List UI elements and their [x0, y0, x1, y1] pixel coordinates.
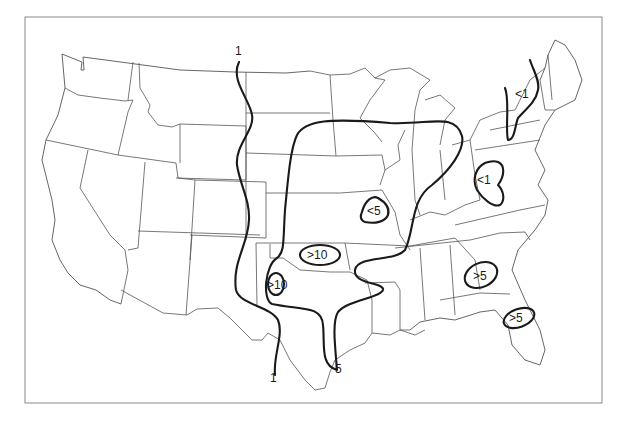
gt10-ok-label: >10	[307, 248, 328, 262]
gt5-ga-label: >5	[473, 269, 487, 283]
isolines	[235, 60, 538, 375]
lt5-missouri-label: <5	[367, 204, 381, 218]
lt1-wv-label: <1	[477, 173, 491, 187]
gt5-fl-label: >5	[509, 311, 523, 325]
isoline-5	[266, 121, 462, 370]
lt1-new-york-label: <1	[515, 87, 529, 101]
isoline-1-west	[235, 62, 279, 375]
isoline-1-label-south: 1	[270, 371, 277, 385]
isoline-5-label: 5	[335, 362, 342, 376]
map-frame	[25, 17, 602, 403]
state-boundaries	[42, 40, 582, 390]
isoline-1-label-north: 1	[235, 44, 242, 58]
gt10-tx-label: >10	[267, 278, 288, 292]
us-isoline-map: 1 1 5 <1 <1 <5 >10 >10 >5 >5	[0, 0, 626, 429]
